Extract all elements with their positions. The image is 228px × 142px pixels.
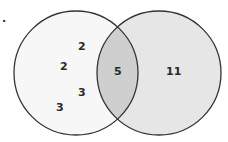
intersection-value: 5 bbox=[114, 65, 122, 78]
right-value: 11 bbox=[166, 65, 181, 78]
left-value-3: 3 bbox=[78, 86, 86, 99]
venn-diagram: . 2 2 3 3 5 11 bbox=[0, 0, 228, 142]
marker-dot: . bbox=[2, 12, 6, 25]
left-value-4: 3 bbox=[56, 101, 64, 114]
left-value-2: 2 bbox=[60, 60, 68, 73]
left-value-1: 2 bbox=[78, 40, 86, 53]
